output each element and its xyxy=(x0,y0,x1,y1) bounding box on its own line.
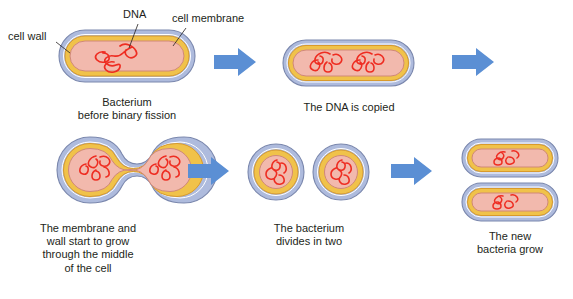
annotation-dna: DNA xyxy=(123,8,146,21)
stage-3-caption: The membrane and wall start to grow thro… xyxy=(8,222,168,275)
arrow-1 xyxy=(214,48,256,76)
stage-3-cytoplasm xyxy=(69,149,192,192)
annotation-cell-membrane: cell membrane xyxy=(172,12,244,25)
stage-4-caption: The bacterium divides in two xyxy=(244,222,374,248)
stage-2-cytoplasm xyxy=(293,50,404,76)
stage-2-cell xyxy=(283,40,414,86)
arrow-2 xyxy=(452,48,494,76)
stage-1-cell xyxy=(59,30,195,82)
stage-1-caption: Bacterium before binary fission xyxy=(62,96,192,122)
stage-5-cell-top xyxy=(462,139,558,177)
stage-5-caption: The new bacteria grow xyxy=(450,230,570,256)
arrow-4 xyxy=(391,157,432,185)
stage-2-caption: The DNA is copied xyxy=(274,101,424,114)
stage-4-cell-right xyxy=(313,144,369,200)
binary-fission-diagram: cell wall DNA cell membrane Bacterium be… xyxy=(0,0,573,299)
stage-5-cell-bottom xyxy=(462,183,558,221)
stage-4-cell-left xyxy=(248,144,304,200)
annotation-cell-wall: cell wall xyxy=(8,30,47,43)
